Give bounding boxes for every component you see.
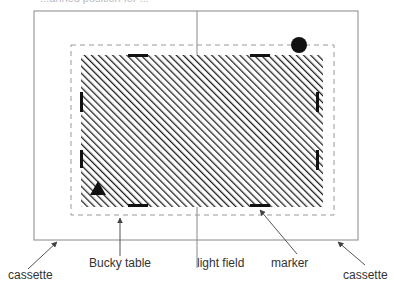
light-field-area — [81, 55, 323, 207]
marker-left-upper — [80, 92, 83, 112]
marker-top-left — [128, 54, 148, 57]
diagram-canvas — [0, 0, 394, 288]
marker-right-lower — [316, 150, 319, 170]
marker-top-right — [250, 54, 270, 57]
label-cassette-right: cassette — [343, 268, 388, 282]
leader-marker — [260, 210, 297, 254]
label-light-field: light field — [197, 256, 244, 270]
marker-bottom-left — [128, 204, 148, 207]
marker-bottom-right — [250, 204, 270, 207]
cut-off-caption: ...anned position for ... — [40, 0, 149, 4]
leader-cassette-right — [338, 242, 365, 265]
circle-orientation-icon — [291, 37, 307, 53]
label-marker: marker — [271, 256, 308, 270]
leader-cassette-left — [28, 242, 57, 269]
marker-right-upper — [316, 92, 319, 112]
marker-left-lower — [80, 150, 83, 168]
label-cassette-left: cassette — [8, 268, 53, 282]
label-bucky-table: Bucky table — [89, 256, 151, 270]
